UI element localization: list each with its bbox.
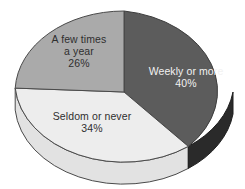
slice-label-a-few-times-a-year-line2: a year: [36, 45, 122, 57]
pie-chart: Weekly or more 40% A few times a year 26…: [0, 0, 245, 189]
slice-label-weekly-or-more: Weekly or more 40%: [140, 65, 232, 89]
slice-label-weekly-or-more-value: 40%: [140, 77, 232, 89]
slice-label-a-few-times-a-year: A few times a year 26%: [36, 33, 122, 69]
pie-chart-graphic: [0, 0, 245, 189]
slice-label-seldom-or-never-name: Seldom or never: [42, 110, 142, 122]
slice-label-seldom-or-never: Seldom or never 34%: [42, 110, 142, 134]
slice-label-a-few-times-a-year-line1: A few times: [36, 33, 122, 45]
slice-label-a-few-times-a-year-value: 26%: [36, 57, 122, 69]
slice-label-weekly-or-more-name: Weekly or more: [140, 65, 232, 77]
slice-label-seldom-or-never-value: 34%: [42, 122, 142, 134]
